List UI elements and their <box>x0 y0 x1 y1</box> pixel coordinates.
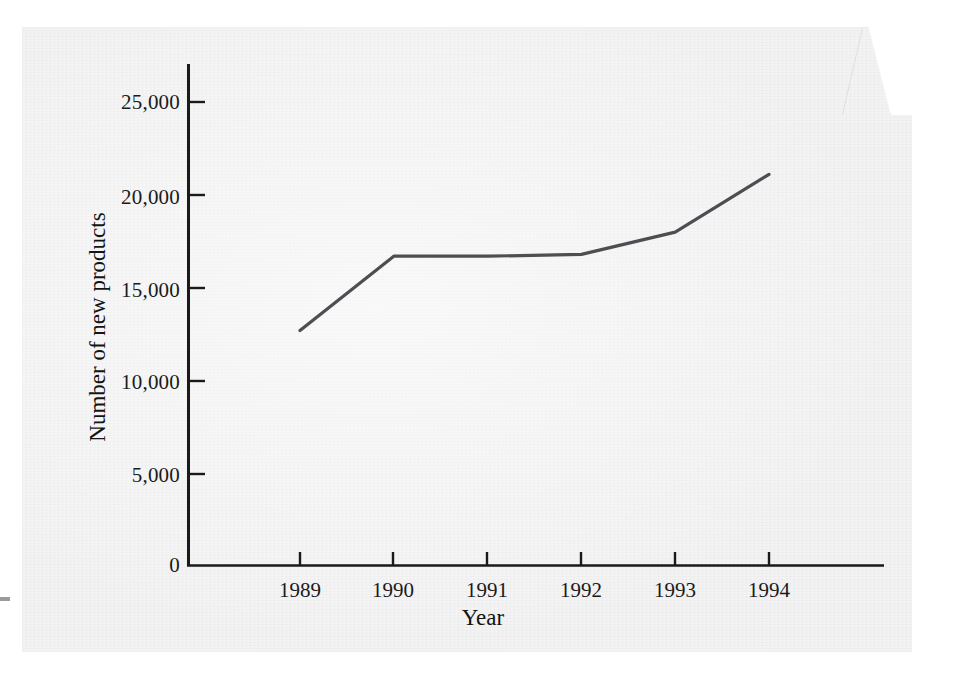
data-series-line <box>300 174 769 330</box>
scanned-chart-page: 25,000 20,000 15,000 10,000 5,000 0 1989… <box>0 0 966 686</box>
x-axis-ticks <box>300 552 769 565</box>
y-axis-ticks <box>190 102 205 474</box>
plot-svg <box>0 0 966 686</box>
line-chart: 25,000 20,000 15,000 10,000 5,000 0 1989… <box>0 0 966 686</box>
